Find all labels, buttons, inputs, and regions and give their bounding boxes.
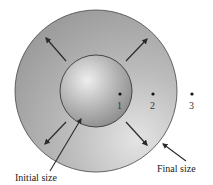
initial-size-sphere <box>60 55 132 127</box>
final-size-label: Final size <box>157 163 196 174</box>
point-2-dot <box>151 92 154 95</box>
expanding-sphere-diagram: 1 2 3 Initial size Final size <box>0 0 213 185</box>
final-size-pointer-arrow <box>163 144 186 161</box>
point-1-label: 1 <box>117 100 122 111</box>
point-3-label: 3 <box>189 100 194 111</box>
initial-size-label: Initial size <box>15 172 57 183</box>
point-1-dot <box>118 92 121 95</box>
point-3-dot <box>190 92 193 95</box>
point-2-label: 2 <box>150 100 155 111</box>
